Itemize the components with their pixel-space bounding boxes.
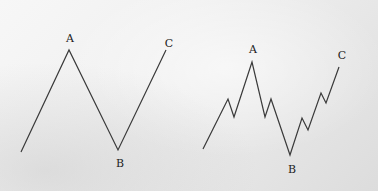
bottom-border <box>0 191 378 194</box>
wave-diagram-svg: A B C A B C <box>0 0 378 194</box>
detailed-wave-line <box>203 62 339 155</box>
simple-wave-label-b: B <box>116 157 124 170</box>
simple-wave-label-c: C <box>165 37 173 50</box>
detailed-wave-label-c: C <box>338 49 346 62</box>
detailed-wave-label-b: B <box>288 163 296 176</box>
detailed-abc-wave: A B C <box>203 43 346 176</box>
detailed-wave-label-a: A <box>248 43 258 56</box>
simple-wave-label-a: A <box>65 32 75 45</box>
simple-abc-wave: A B C <box>21 32 173 170</box>
simple-wave-line <box>21 50 166 152</box>
wave-diagram-canvas: A B C A B C <box>0 0 378 194</box>
